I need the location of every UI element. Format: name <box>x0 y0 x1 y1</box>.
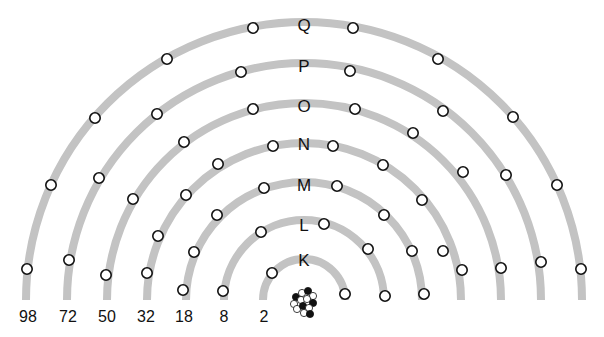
electron-icon <box>248 104 258 114</box>
shell-capacity-label: 18 <box>175 308 193 325</box>
electron-icon <box>153 231 163 241</box>
nucleus <box>290 287 316 317</box>
electron-icon <box>328 141 338 151</box>
electron-icon <box>94 173 104 183</box>
electron-icon <box>178 285 188 295</box>
electron-icon <box>433 54 443 64</box>
shell-m <box>186 182 422 300</box>
electron-icon <box>536 257 546 267</box>
electron-icon <box>380 291 390 301</box>
shell-labels: KLMNOPQ <box>295 16 313 270</box>
electron-icon <box>457 265 467 275</box>
electron-icon <box>90 113 100 123</box>
electron-icon <box>212 210 222 220</box>
electron-icon <box>407 246 417 256</box>
shell-label: L <box>299 216 308 235</box>
electron-icon <box>350 104 360 114</box>
capacity-labels: 281832507298 <box>19 308 268 325</box>
shell-capacity-label: 8 <box>220 308 229 325</box>
electron-icon <box>363 244 373 254</box>
electron-icon <box>142 268 152 278</box>
electron-icon <box>576 264 586 274</box>
electron-icon <box>218 286 228 296</box>
electron-icon <box>22 264 32 274</box>
shell-capacity-label: 72 <box>59 308 77 325</box>
electron-icon <box>46 180 56 190</box>
electron-icon <box>236 67 246 77</box>
electron-icon <box>348 23 358 33</box>
electron-icon <box>319 219 329 229</box>
electron-icon <box>438 246 448 256</box>
shell-label: N <box>298 135 310 154</box>
electron-icon <box>268 141 278 151</box>
shell-arc <box>186 182 422 300</box>
electron-icon <box>128 194 138 204</box>
electron-icon <box>345 66 355 76</box>
electron-icon <box>189 247 199 257</box>
electron-icon <box>181 190 191 200</box>
electron-icon <box>408 128 418 138</box>
shell-label: K <box>298 251 310 270</box>
shell-capacity-label: 32 <box>137 308 155 325</box>
electron-icon <box>332 181 342 191</box>
electron-icon <box>64 255 74 265</box>
shell-arc <box>107 103 501 300</box>
electron-icon <box>379 210 389 220</box>
electron-icon <box>552 180 562 190</box>
electron-icon <box>496 263 506 273</box>
electron-icon <box>256 227 266 237</box>
electron-icon <box>378 160 388 170</box>
electron-icon <box>162 54 172 64</box>
electron-icon <box>101 270 111 280</box>
electron-icon <box>259 183 269 193</box>
shell-capacity-label: 98 <box>19 308 37 325</box>
shell-capacity-label: 50 <box>98 308 116 325</box>
electron-icon <box>417 195 427 205</box>
electron-icon <box>501 170 511 180</box>
electron-icon <box>340 289 350 299</box>
electron-icon <box>458 167 468 177</box>
electron-icon <box>419 289 429 299</box>
electron-icon <box>179 137 189 147</box>
electron-icon <box>438 106 448 116</box>
shell-capacity-label: 2 <box>260 308 269 325</box>
shell-o <box>107 103 501 300</box>
shell-label: P <box>298 57 309 76</box>
shell-label: O <box>297 97 310 116</box>
electron-icon <box>508 112 518 122</box>
electron-icon <box>152 109 162 119</box>
proton-icon <box>306 310 313 317</box>
shell-label: M <box>297 176 311 195</box>
electron-icon <box>213 159 223 169</box>
electron-shell-diagram: KLMNOPQ 281832507298 <box>0 0 604 337</box>
electron-icon <box>267 268 277 278</box>
electron-icon <box>248 23 258 33</box>
shell-label: Q <box>297 16 310 35</box>
